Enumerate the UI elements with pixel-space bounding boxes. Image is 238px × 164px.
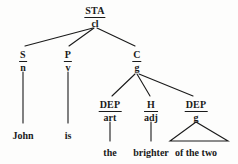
- node-function-label: STA: [84, 6, 105, 18]
- branch-root-to-complement: [97, 28, 135, 46]
- leaf-brighter: brighter: [133, 148, 169, 158]
- node-function-label: P: [64, 50, 72, 62]
- node-dep-art: DEP art: [99, 100, 122, 123]
- leaf-is: is: [65, 131, 72, 141]
- leaf-the: the: [103, 148, 116, 158]
- node-class-label: art: [99, 112, 122, 123]
- node-class-label: v: [64, 62, 72, 73]
- node-function-label: DEP: [185, 100, 208, 112]
- branch-complement-to-dep-art: [112, 74, 135, 96]
- branch-complement-to-dep-g: [139, 74, 193, 96]
- leaf-john: John: [12, 131, 33, 141]
- branch-root-to-subject: [25, 28, 93, 46]
- node-class-label: g: [132, 62, 141, 73]
- node-subject-s-n: S n: [19, 50, 27, 73]
- node-root-sta-cl: STA cl: [84, 6, 105, 29]
- node-class-label: n: [19, 62, 27, 73]
- node-dep-g: DEP g: [185, 100, 208, 123]
- node-class-label: cl: [84, 18, 105, 29]
- node-class-label: g: [185, 112, 208, 123]
- syntax-tree-diagram: STA cl S n P v C g DEP art H adj DEP g J…: [0, 0, 238, 164]
- tree-branch-lines: [0, 0, 238, 164]
- node-function-label: C: [132, 50, 141, 62]
- node-class-label: adj: [144, 112, 158, 123]
- leaf-of-the-two: of the two: [175, 148, 217, 158]
- node-function-label: DEP: [99, 100, 122, 112]
- node-function-label: H: [144, 100, 158, 112]
- triangle-of-the-two: [170, 122, 228, 141]
- node-head-adj: H adj: [144, 100, 158, 123]
- node-predicator-p-v: P v: [64, 50, 72, 73]
- node-function-label: S: [19, 50, 27, 62]
- node-complement-c-g: C g: [132, 50, 141, 73]
